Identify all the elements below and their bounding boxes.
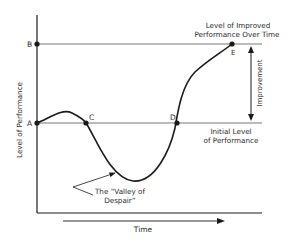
point-a bbox=[34, 120, 39, 125]
valley-label-line1: The “Valley of bbox=[94, 187, 145, 196]
label-a: A bbox=[27, 119, 33, 128]
point-c bbox=[83, 120, 88, 125]
y-axis-label: Level of Performance bbox=[15, 81, 24, 158]
improved-level-label-line1: Level of Improved bbox=[206, 21, 271, 30]
time-arrow-head-icon bbox=[217, 218, 225, 224]
improvement-label: Improvement bbox=[256, 59, 264, 106]
initial-level-label-line1: Initial Level bbox=[210, 127, 251, 136]
improvement-arrow-down-icon bbox=[248, 114, 254, 121]
label-b: B bbox=[27, 40, 32, 49]
point-e bbox=[229, 41, 234, 46]
performance-curve bbox=[37, 44, 232, 181]
improvement-arrow-up-icon bbox=[248, 46, 254, 53]
label-d: D bbox=[170, 113, 176, 122]
initial-level-label-line2: of Performance bbox=[204, 136, 259, 145]
improved-level-label-line2: Performance Over Time bbox=[195, 30, 281, 39]
label-c: C bbox=[89, 113, 94, 122]
x-axis-label: Time bbox=[133, 225, 153, 234]
point-b bbox=[34, 41, 39, 46]
label-e: E bbox=[231, 49, 235, 57]
valley-callout-arrow bbox=[73, 173, 115, 187]
performance-curve-diagram: A B C D E Improvement Level of Improved … bbox=[0, 0, 288, 245]
valley-callout-line bbox=[73, 187, 93, 195]
valley-label-line2: Despair” bbox=[104, 196, 136, 205]
